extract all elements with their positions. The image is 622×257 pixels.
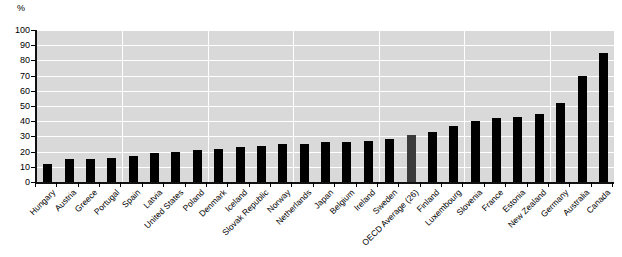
y-axis-tick-label: 10 [2,162,30,171]
x-axis-labels: HungaryAustriaGreecePortugalSpainLatviaU… [35,188,612,257]
bar [43,164,52,182]
x-axis-tick-mark [505,182,506,187]
y-axis-tick-label: 30 [2,132,30,141]
bar [321,142,330,182]
bar-slot [294,30,315,182]
x-axis-tick-mark [120,182,121,187]
plot-area [35,30,614,184]
x-axis-tick-mark [249,182,250,187]
bar-slot [229,30,250,182]
x-axis-tick-mark [398,182,399,187]
bar-slot [465,30,486,182]
x-axis-tick-mark [441,182,442,187]
bar [107,158,116,182]
bar [471,121,480,182]
x-axis-tick-mark [377,182,378,187]
bar [556,103,565,182]
x-axis-tick-mark [356,182,357,187]
bar [428,132,437,182]
x-axis-tick-mark [420,182,421,187]
bar-slot [422,30,443,182]
bar-slot [571,30,592,182]
bar-slot [144,30,165,182]
bar [150,153,159,182]
y-axis-unit-label: % [17,3,25,13]
x-axis-tick-mark [78,182,79,187]
bar [492,118,501,182]
x-axis-tick-mark [548,182,549,187]
bar [65,159,74,182]
bar-slot [443,30,464,182]
bar-slot [80,30,101,182]
bar [257,146,266,182]
x-axis-tick-mark [227,182,228,187]
bar [513,117,522,182]
x-axis-tick-mark [270,182,271,187]
bar-slot [379,30,400,182]
bar-series [37,30,614,182]
bar-slot [336,30,357,182]
bar [214,149,223,182]
bar-slot [165,30,186,182]
bar [300,144,309,182]
x-axis-tick-mark [612,182,613,187]
x-axis-tick-mark [206,182,207,187]
bar [407,135,416,182]
bar-slot [272,30,293,182]
bar-slot [123,30,144,182]
bar [578,76,587,182]
bar-slot [58,30,79,182]
x-axis-label: Spain [121,188,143,210]
bar [236,147,245,182]
x-axis-tick-mark [462,182,463,187]
x-axis-tick-mark [591,182,592,187]
bar [171,152,180,182]
bar [385,139,394,182]
bar-slot [315,30,336,182]
bar [599,53,608,182]
bar-slot [358,30,379,182]
y-axis-tick-label: 20 [2,147,30,156]
bar-slot [187,30,208,182]
bar-slot [529,30,550,182]
y-axis-tick-label: 40 [2,117,30,126]
bar-slot [593,30,614,182]
x-axis-tick-mark [334,182,335,187]
bar-slot [208,30,229,182]
x-axis-tick-mark [185,182,186,187]
bar-slot [251,30,272,182]
x-axis-tick-mark [56,182,57,187]
bar [86,159,95,182]
x-axis-tick-mark [313,182,314,187]
bar-slot [101,30,122,182]
bar-slot [550,30,571,182]
x-axis-tick-mark [527,182,528,187]
y-axis-tick-label: 80 [2,56,30,65]
bar-slot [486,30,507,182]
y-axis-tick-label: 70 [2,71,30,80]
y-axis-tick-label: 60 [2,86,30,95]
y-axis-tick-label: 0 [2,178,30,187]
x-axis-label: Hungary [28,188,57,217]
y-axis: 1009080706050403020100 [0,24,33,188]
x-axis-tick-mark [142,182,143,187]
bar [535,114,544,182]
y-axis-tick-label: 90 [2,41,30,50]
x-axis-tick-mark [99,182,100,187]
x-axis-tick-mark [291,182,292,187]
x-axis-tick-mark [484,182,485,187]
x-axis-ticks [35,182,612,187]
bar [129,156,138,182]
x-axis-tick-mark [35,182,36,187]
bar [449,126,458,182]
x-axis-tick-mark [163,182,164,187]
bar [364,141,373,182]
y-axis-tick-label: 100 [2,26,30,35]
bar [278,144,287,182]
y-axis-tick-label: 50 [2,102,30,111]
bar [193,150,202,182]
x-axis-tick-mark [569,182,570,187]
bar [342,142,351,182]
bar-slot [400,30,421,182]
bar-chart: % 1009080706050403020100 HungaryAustriaG… [0,0,622,257]
